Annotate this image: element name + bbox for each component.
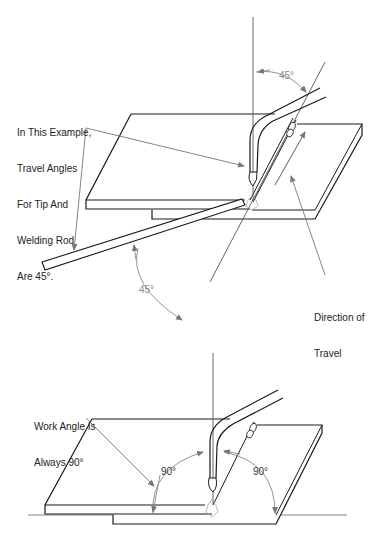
callout-line: In This Example, [17, 127, 91, 139]
callout-line: For Tip And [17, 199, 91, 211]
direction-of-travel-callout: Direction of Travel [314, 288, 365, 384]
callout-line: Travel Angles [17, 163, 91, 175]
callout-line: Direction of [314, 312, 365, 324]
work-angle-callout: Work Angle Is Always 90° [34, 397, 96, 493]
tip-angle-label: 45° [279, 70, 294, 81]
welding-angles-diagram: In This Example, Travel Angles For Tip A… [0, 0, 383, 542]
callout-line: Always 90° [34, 457, 96, 469]
right-90-angle-label: 90° [253, 466, 268, 477]
travel-angles-callout: In This Example, Travel Angles For Tip A… [17, 103, 91, 307]
callout-line: Are 45°. [17, 271, 91, 283]
callout-line: Work Angle Is [34, 421, 96, 433]
callout-line: Travel [314, 348, 365, 360]
rod-angle-label: 45° [139, 284, 154, 295]
callout-line: Welding Rod [17, 235, 91, 247]
left-90-angle-label: 90° [161, 466, 176, 477]
